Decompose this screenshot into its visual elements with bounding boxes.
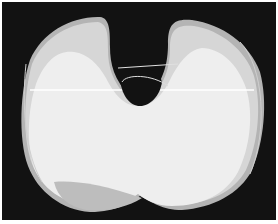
implant-outlines-svg bbox=[2, 2, 276, 220]
implant-photo bbox=[2, 2, 276, 220]
image-frame bbox=[0, 0, 278, 224]
